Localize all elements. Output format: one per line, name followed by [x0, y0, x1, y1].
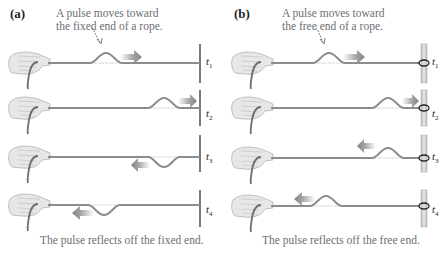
- panel-b-post-2: [421, 90, 427, 126]
- panel-b-direction-arrow-1: [343, 50, 365, 64]
- wave-diagram: [0, 0, 446, 254]
- panel-a-direction-arrow-4: [72, 206, 94, 220]
- panel-b-post-1: [421, 44, 427, 83]
- panel-a-direction-arrow-2: [178, 94, 197, 108]
- panel-b-post-3: [421, 135, 427, 172]
- panel-a-row-1: [9, 50, 200, 89]
- panel-b-row-2: [232, 94, 429, 134]
- panel-b-direction-arrow-2: [402, 94, 419, 108]
- panel-b-row-3: [232, 139, 429, 184]
- panel-a-row-3: [9, 146, 200, 183]
- panel-b-callout-pointer: [316, 28, 323, 42]
- panel-a-row-4: [9, 194, 200, 231]
- panel-a-direction-arrow-1: [120, 50, 142, 64]
- panel-b-row-1: [232, 50, 429, 89]
- panel-b-direction-arrow-3: [357, 139, 376, 153]
- panel-a-direction-arrow-3: [131, 158, 150, 172]
- panel-b-direction-arrow-4: [294, 192, 315, 206]
- panel-a-row-2: [9, 94, 200, 134]
- panel-a-callout-pointer: [92, 28, 100, 42]
- panel-b-row-4: [232, 192, 429, 232]
